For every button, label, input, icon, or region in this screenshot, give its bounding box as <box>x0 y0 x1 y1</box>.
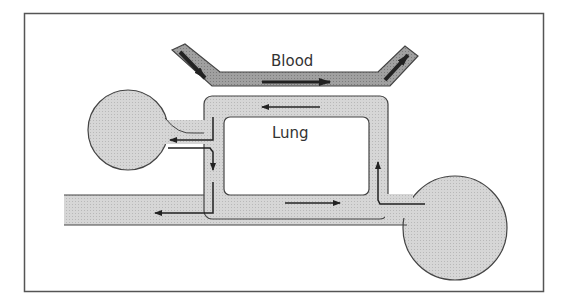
left-reservoir <box>88 90 168 170</box>
right-reservoir <box>403 176 507 280</box>
lung-label: Lung <box>272 124 309 142</box>
blood-label: Blood <box>271 52 313 70</box>
lung-diagram: Blood Lung <box>0 0 570 299</box>
